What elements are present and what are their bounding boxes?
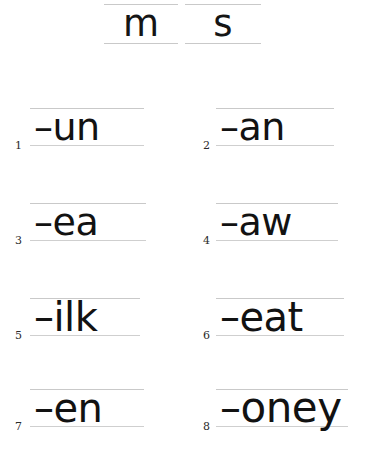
worksheet-item-4[interactable]: 4 –aw xyxy=(190,195,370,269)
item-word: –an xyxy=(216,108,285,146)
worksheet-item-7[interactable]: 7 –en xyxy=(4,381,184,455)
item-word: –un xyxy=(30,108,100,146)
item-number: 3 xyxy=(4,235,22,247)
item-number: 2 xyxy=(190,140,210,152)
worksheet-page: m s 1 –un 2 –an 3 –ea 4 –aw 5 –ilk 6 –e xyxy=(0,0,370,467)
worksheet-item-3[interactable]: 3 –ea xyxy=(4,195,184,269)
worksheet-item-5[interactable]: 5 –ilk xyxy=(4,290,184,364)
item-number: 8 xyxy=(190,421,210,433)
item-word: –ilk xyxy=(30,298,97,336)
item-number: 1 xyxy=(4,140,22,152)
worksheet-item-6[interactable]: 6 –eat xyxy=(190,290,370,364)
item-word: –en xyxy=(30,389,102,427)
item-word: –oney xyxy=(216,389,342,427)
worksheet-item-2[interactable]: 2 –an xyxy=(190,100,370,174)
letter-bank-letter-m: m xyxy=(104,5,178,43)
item-number: 6 xyxy=(190,330,210,342)
letter-bank-letter-s: s xyxy=(185,5,261,43)
letter-bank-cell-s[interactable]: s xyxy=(185,4,261,44)
worksheet-item-1[interactable]: 1 –un xyxy=(4,100,184,174)
item-word: –eat xyxy=(216,298,303,336)
worksheet-item-8[interactable]: 8 –oney xyxy=(190,381,370,455)
item-number: 4 xyxy=(190,235,210,247)
item-number: 5 xyxy=(4,330,22,342)
item-word: –ea xyxy=(30,203,98,241)
item-word: –aw xyxy=(216,203,292,241)
letter-bank-cell-m[interactable]: m xyxy=(104,4,178,44)
item-number: 7 xyxy=(4,421,22,433)
letter-bank: m s xyxy=(0,4,370,50)
